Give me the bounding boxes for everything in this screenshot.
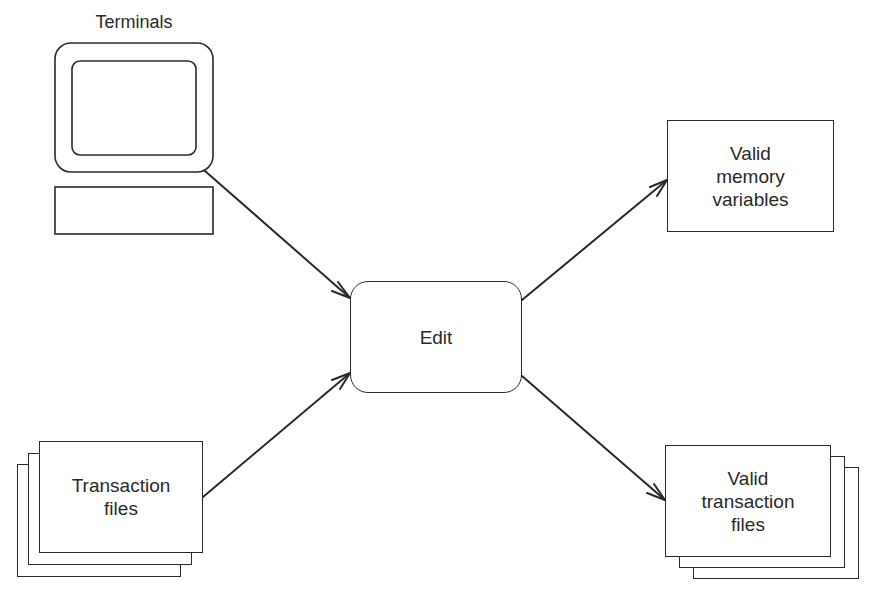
arrow-transaction-files-to-edit <box>203 373 350 497</box>
arrow-edit-to-valid-transaction-files <box>522 376 665 500</box>
transaction-files-label: Transaction files <box>39 441 203 553</box>
valid-memory-variables-label: Valid memory variables <box>667 120 834 232</box>
arrow-terminals-to-edit <box>205 171 350 298</box>
valid-transaction-files-label: Valid transaction files <box>665 445 831 557</box>
arrow-edit-to-valid-memory-variables <box>522 180 667 300</box>
edit-label: Edit <box>350 281 522 393</box>
terminals-label: Terminals <box>55 12 213 33</box>
